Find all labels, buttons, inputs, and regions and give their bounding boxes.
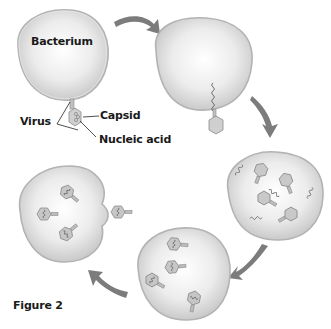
lytic-cycle-diagram: Bacterium Virus Capsid Nucleic acid Figu… (0, 0, 331, 329)
arrow-stage4-to-stage5 (88, 270, 128, 298)
virus-label: Virus (20, 116, 51, 127)
stage-2-cell (156, 18, 253, 110)
nucleic-acid-label: Nucleic acid (99, 134, 171, 145)
diagram-canvas (0, 0, 331, 329)
stage-2-empty-virus (209, 109, 223, 134)
arrow-stage1-to-stage2 (114, 16, 160, 34)
stage-1-virus (69, 99, 81, 126)
capsid-label: Capsid (100, 110, 140, 121)
bacterium-label: Bacterium (31, 36, 93, 47)
stage-5-cell (20, 166, 109, 262)
figure-caption: Figure 2 (13, 300, 63, 311)
stage-1-cell (18, 10, 108, 100)
arrow-stage2-to-stage3 (250, 96, 278, 138)
arrow-stage3-to-stage4 (228, 244, 268, 280)
